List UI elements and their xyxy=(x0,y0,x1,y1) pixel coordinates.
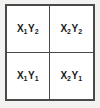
x-subscript-top-left: 1 xyxy=(24,28,28,35)
coordinate-grid-diagram: X1Y2 X2Y2 X1Y1 X2Y1 xyxy=(5,4,95,101)
x-subscript-top-right: 2 xyxy=(67,28,71,35)
x-subscript-bottom-right: 2 xyxy=(67,75,71,82)
y-variable-top-left: Y xyxy=(28,23,35,34)
x-subscript-bottom-left: 1 xyxy=(24,75,28,82)
y-variable-bottom-left: Y xyxy=(28,70,35,81)
grid-cell-label-bottom-left: X1Y1 xyxy=(17,71,39,81)
grid-cell-bottom-left: X1Y1 xyxy=(7,53,50,100)
y-subscript-bottom-left: 1 xyxy=(35,75,39,82)
grid-cell-label-top-left: X1Y2 xyxy=(17,24,39,34)
grid-cell-top-left: X1Y2 xyxy=(7,6,50,53)
y-subscript-top-left: 2 xyxy=(35,28,39,35)
x-variable-bottom-left: X xyxy=(17,70,24,81)
y-subscript-top-right: 2 xyxy=(78,28,82,35)
grid-cell-label-top-right: X2Y2 xyxy=(60,24,82,34)
y-subscript-bottom-right: 1 xyxy=(78,75,82,82)
grid-cell-bottom-right: X2Y1 xyxy=(50,53,93,100)
grid-cell-label-bottom-right: X2Y1 xyxy=(60,71,82,81)
grid-cell-top-right: X2Y2 xyxy=(50,6,93,53)
x-variable-top-left: X xyxy=(17,23,24,34)
